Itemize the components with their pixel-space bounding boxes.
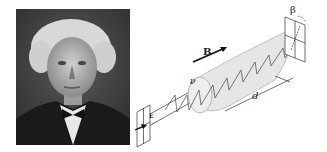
- portrait-photo: [16, 9, 130, 145]
- label-magnetic-field: B: [203, 46, 211, 57]
- faraday-rotation-diagram: B ν d β E: [135, 0, 327, 152]
- label-rotation-angle: β: [290, 4, 296, 15]
- label-verdet: ν: [190, 76, 195, 86]
- diagram-drawing: [135, 0, 327, 152]
- label-input-field: E: [149, 112, 154, 119]
- label-length: d: [252, 90, 258, 101]
- portrait-image: [16, 9, 130, 145]
